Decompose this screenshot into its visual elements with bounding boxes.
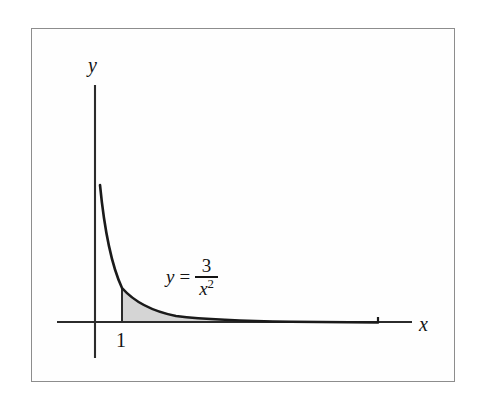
equation-left-side: y — [166, 266, 174, 288]
fraction-numerator: 3 — [198, 256, 216, 276]
curve-equation-label: y = 3 x2 — [166, 256, 218, 298]
x-axis-label: x — [419, 313, 428, 336]
denominator-base: x — [199, 278, 207, 299]
shaded-area — [122, 288, 378, 322]
fraction-denominator: x2 — [195, 278, 218, 298]
function-curve — [100, 185, 378, 323]
figure-root: y x 1 y = 3 x2 — [0, 0, 485, 405]
fraction-three-over-x-squared: 3 x2 — [195, 256, 218, 298]
y-axis-label: y — [88, 54, 97, 77]
equals-sign: = — [179, 266, 190, 288]
x-tick-label-1: 1 — [116, 329, 126, 352]
denominator-exponent: 2 — [208, 275, 214, 290]
plot-canvas — [0, 0, 485, 405]
